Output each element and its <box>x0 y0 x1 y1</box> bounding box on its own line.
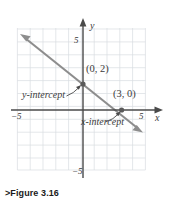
figure-caption: >Figure 3.16 <box>5 188 59 198</box>
x-tick-label-5: 5 <box>139 112 144 121</box>
y-axis-arrow <box>80 18 87 27</box>
point-x-intercept-dot <box>119 107 124 112</box>
point-y-intercept-dot <box>80 81 85 86</box>
annotation-y-intercept: y-intercept <box>22 90 65 100</box>
y-axis-name: y <box>90 21 94 31</box>
annotation-x-intercept: x-intercept <box>81 117 124 127</box>
point-label-y-intercept: (0, 2) <box>86 64 109 75</box>
point-label-x-intercept: (3, 0) <box>113 89 136 100</box>
y-tick-label-5: 5 <box>74 36 79 45</box>
figure-3-16: y x 5 −5 −5 5 (0, 2) (3, 0) y-intercept … <box>0 0 172 209</box>
x-tick-label-minus5: −5 <box>11 112 22 121</box>
x-axis-name: x <box>155 113 159 123</box>
y-tick-label-minus5: −5 <box>72 167 83 176</box>
